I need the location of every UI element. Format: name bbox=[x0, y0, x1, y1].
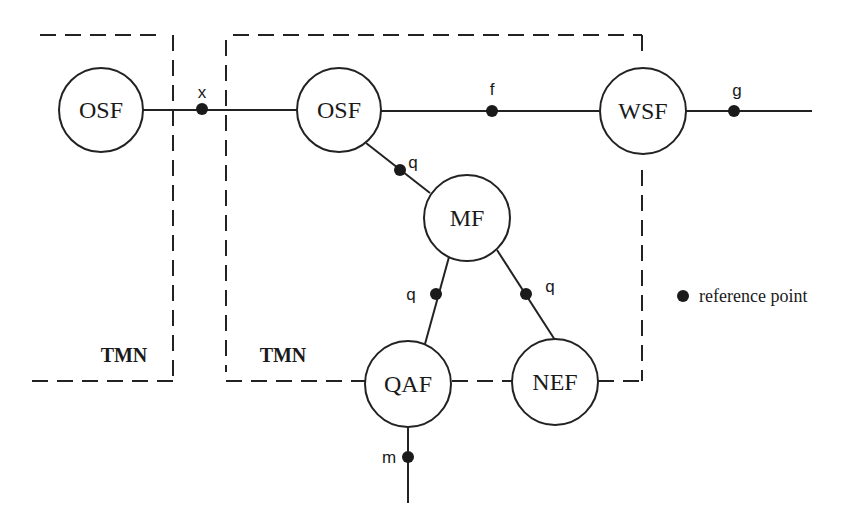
svg-text:q: q bbox=[408, 153, 417, 172]
svg-text:m: m bbox=[382, 448, 396, 467]
reference-point-q-mf-nef: q bbox=[520, 277, 555, 300]
reference-point-icon bbox=[394, 164, 406, 176]
reference-point-icon bbox=[520, 288, 532, 300]
node-label: QAF bbox=[384, 371, 432, 397]
svg-text:x: x bbox=[198, 83, 207, 102]
node-wsf: WSF bbox=[600, 68, 686, 154]
tmn-domain-right-label: TMN bbox=[260, 344, 307, 366]
reference-point-g: g bbox=[728, 81, 742, 117]
node-osf-right: OSF bbox=[297, 68, 381, 152]
node-label: OSF bbox=[79, 97, 123, 123]
svg-text:q: q bbox=[406, 285, 415, 304]
reference-point-icon bbox=[196, 103, 208, 115]
tmn-reference-diagram: OSF OSF WSF MF QAF NEF x f g q q bbox=[0, 0, 862, 530]
tmn-domain-left-label: TMN bbox=[101, 344, 148, 366]
node-label: OSF bbox=[317, 97, 361, 123]
reference-point-f: f bbox=[486, 80, 498, 117]
node-label: WSF bbox=[618, 98, 667, 124]
node-label: NEF bbox=[532, 369, 577, 395]
node-label: MF bbox=[450, 205, 485, 231]
node-nef: NEF bbox=[512, 339, 598, 425]
svg-text:q: q bbox=[545, 277, 554, 296]
link-mf-qaf bbox=[425, 257, 449, 344]
node-qaf: QAF bbox=[365, 341, 451, 427]
connections bbox=[143, 110, 812, 503]
reference-point-x: x bbox=[196, 83, 208, 115]
svg-text:g: g bbox=[732, 81, 741, 100]
reference-point-q-osf-mf: q bbox=[394, 153, 418, 176]
reference-point-icon bbox=[430, 288, 442, 300]
node-osf-left: OSF bbox=[59, 68, 143, 152]
reference-point-icon bbox=[486, 105, 498, 117]
reference-point-icon bbox=[402, 451, 414, 463]
reference-point-legend-icon bbox=[677, 290, 689, 302]
legend-label: reference point bbox=[699, 286, 807, 306]
svg-text:f: f bbox=[490, 80, 495, 99]
node-mf: MF bbox=[424, 175, 510, 261]
legend: reference point bbox=[677, 286, 807, 306]
reference-point-icon bbox=[728, 105, 740, 117]
reference-point-m: m bbox=[382, 448, 414, 467]
